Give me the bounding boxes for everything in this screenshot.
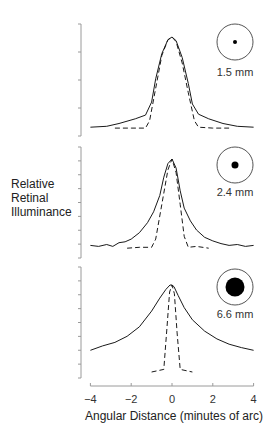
x-axis-label: Angular Distance (minutes of arc)	[0, 409, 280, 423]
pupil-dot-icon	[232, 162, 239, 169]
pupil-size-label: 2.4 mm	[217, 186, 254, 198]
x-tick-label: 0	[169, 393, 175, 405]
cropped-caption: ........	[4, 440, 276, 446]
x-tick-label: 2	[210, 393, 216, 405]
curve-diffraction-limited	[152, 285, 193, 372]
pupil-size-label: 6.6 mm	[217, 308, 254, 320]
panel-top: 1.5 mm	[78, 24, 254, 136]
x-axis: −4−2024	[84, 383, 257, 405]
x-tick-label: −4	[84, 393, 97, 405]
y-axis-label: Relative Retinal Illuminance	[11, 177, 72, 219]
panel-middle: 2.4 mm	[78, 147, 254, 258]
psf-figure: 1.5 mm2.4 mm6.6 mm −4−2024	[0, 0, 280, 446]
pupil-dot-icon	[226, 278, 245, 297]
pupil-dot-icon	[233, 40, 237, 44]
y-label-line-1: Relative	[11, 177, 72, 191]
panel-bottom: 6.6 mm	[78, 267, 254, 378]
pupil-size-label: 1.5 mm	[217, 66, 254, 78]
curve-diffraction-limited	[115, 37, 229, 128]
y-label-line-3: Illuminance	[11, 205, 72, 219]
x-tick-label: −2	[125, 393, 138, 405]
x-tick-label: 4	[251, 393, 257, 405]
curve-diffraction-limited	[127, 159, 209, 248]
y-label-line-2: Retinal	[11, 191, 72, 205]
